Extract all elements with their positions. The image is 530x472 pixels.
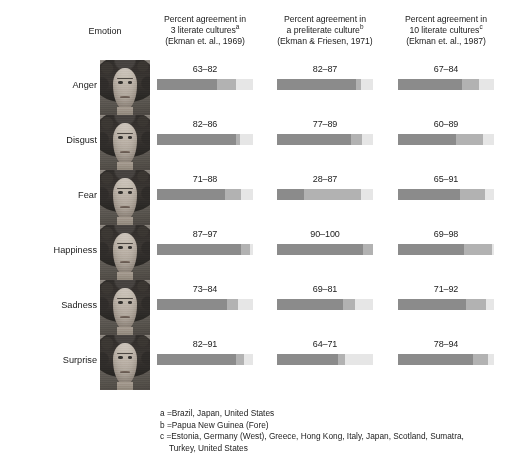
footnote-key: c = (160, 431, 171, 443)
data-cell: 67–84 (398, 60, 494, 115)
range-value-label: 71–88 (157, 174, 253, 184)
table-row: Anger63–8282–8767–84 (0, 60, 530, 115)
range-bar (398, 134, 494, 145)
range-value-label: 90–100 (277, 229, 373, 239)
bar-segment-lower-bound (157, 244, 241, 255)
table-row: Fear71–8828–8765–91 (0, 170, 530, 225)
bar-segment-lower-bound (398, 299, 466, 310)
bar-segment-range (343, 299, 355, 310)
column-header-citation: (Ekman et. al., 1969) (148, 36, 262, 47)
bar-segment-range (351, 134, 363, 145)
range-value-label: 73–84 (157, 284, 253, 294)
column-header-line1: Percent agreement in (148, 14, 262, 25)
emotion-label-fear: Fear (0, 190, 97, 200)
data-cell: 90–100 (277, 225, 373, 280)
range-value-label: 77–89 (277, 119, 373, 129)
range-bar (157, 134, 253, 145)
data-cell: 71–92 (398, 280, 494, 335)
range-bar (277, 354, 373, 365)
footnote-a: a = Brazil, Japan, United States (160, 408, 525, 420)
footnote-marker-b: b (360, 23, 364, 30)
data-cell: 71–88 (157, 170, 253, 225)
data-cell: 82–86 (157, 115, 253, 170)
range-bar (157, 244, 253, 255)
bar-segment-range (236, 354, 245, 365)
range-value-label: 78–94 (398, 339, 494, 349)
bar-segment-range (236, 134, 240, 145)
bar-segment-lower-bound (277, 134, 351, 145)
footnote-marker-a: a (236, 23, 240, 30)
column-header-line1: Percent agreement in (389, 14, 503, 25)
range-value-label: 82–86 (157, 119, 253, 129)
column-header-3: Percent agreement in10 literate cultures… (389, 14, 503, 48)
data-cell: 77–89 (277, 115, 373, 170)
column-header-line1: Percent agreement in (268, 14, 382, 25)
bar-segment-range (227, 299, 238, 310)
range-bar (398, 244, 494, 255)
range-value-label: 71–92 (398, 284, 494, 294)
emotion-label-anger: Anger (0, 80, 97, 90)
range-value-label: 67–84 (398, 64, 494, 74)
table-row: Happiness87–9790–10069–98 (0, 225, 530, 280)
range-bar (398, 79, 494, 90)
range-bar (157, 354, 253, 365)
bar-segment-lower-bound (398, 79, 462, 90)
range-bar (157, 79, 253, 90)
range-bar (277, 134, 373, 145)
column-header-citation: (Ekman et. al., 1987) (389, 36, 503, 47)
range-value-label: 69–98 (398, 229, 494, 239)
data-cell: 64–71 (277, 335, 373, 390)
range-value-label: 87–97 (157, 229, 253, 239)
bar-segment-lower-bound (277, 189, 304, 200)
column-header-line2: 3 literate culturesa (148, 25, 262, 36)
bar-segment-range (456, 134, 484, 145)
bar-segment-lower-bound (277, 299, 343, 310)
column-header-line2: a preliterate cultureb (268, 25, 382, 36)
bar-segment-lower-bound (398, 189, 460, 200)
bar-segment-lower-bound (157, 189, 225, 200)
bar-segment-lower-bound (398, 354, 473, 365)
range-bar (277, 79, 373, 90)
data-cell: 60–89 (398, 115, 494, 170)
anger-face-photo (100, 60, 150, 115)
sadness-face-photo (100, 280, 150, 335)
bar-segment-range (363, 244, 373, 255)
bar-segment-lower-bound (398, 134, 456, 145)
range-bar (398, 189, 494, 200)
footnote-b: b = Papua New Guinea (Fore) (160, 420, 525, 432)
emotion-label-happiness: Happiness (0, 245, 97, 255)
footnote-marker-c: c (479, 23, 482, 30)
bar-segment-range (460, 189, 485, 200)
range-bar (277, 189, 373, 200)
data-cell: 82–91 (157, 335, 253, 390)
bar-segment-lower-bound (157, 79, 217, 90)
range-value-label: 65–91 (398, 174, 494, 184)
footnote-text: Papua New Guinea (Fore) (172, 420, 269, 430)
data-cell: 69–81 (277, 280, 373, 335)
column-header-2: Percent agreement ina preliterate cultur… (268, 14, 382, 48)
table-row: Sadness73–8469–8171–92 (0, 280, 530, 335)
range-bar (157, 189, 253, 200)
range-bar (398, 354, 494, 365)
range-value-label: 28–87 (277, 174, 373, 184)
table-row: Surprise82–9164–7178–94 (0, 335, 530, 390)
bar-segment-range (462, 79, 478, 90)
bar-segment-range (225, 189, 241, 200)
data-cell: 28–87 (277, 170, 373, 225)
range-bar (157, 299, 253, 310)
range-value-label: 82–91 (157, 339, 253, 349)
footnote-key: a = (160, 408, 172, 420)
range-bar (277, 299, 373, 310)
bar-segment-range (466, 299, 486, 310)
range-value-label: 64–71 (277, 339, 373, 349)
footnotes: a = Brazil, Japan, United Statesb = Papu… (160, 408, 525, 454)
bar-segment-range (241, 244, 251, 255)
emotion-label-disgust: Disgust (0, 135, 97, 145)
data-cell: 65–91 (398, 170, 494, 225)
bar-segment-range (217, 79, 235, 90)
bar-segment-range (473, 354, 488, 365)
bar-segment-lower-bound (398, 244, 464, 255)
bar-segment-lower-bound (277, 79, 356, 90)
footnote-text: Estonia, Germany (West), Greece, Hong Ko… (171, 431, 464, 441)
column-header-1: Percent agreement in3 literate culturesa… (148, 14, 262, 48)
